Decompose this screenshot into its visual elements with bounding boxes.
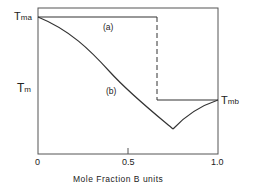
curve-b-descending: [38, 17, 173, 129]
x-axis-label: Mole Fraction B units: [73, 175, 163, 184]
y-axis-label: Tm: [17, 82, 31, 94]
plot-frame: [38, 8, 218, 154]
curve-b-label: (b): [106, 87, 116, 96]
curve-b-ascending: [173, 100, 218, 129]
x-tick-label-0.5: 0.5: [122, 158, 135, 167]
x-tick-label-0: 0: [35, 158, 40, 167]
tma-label: Tma: [14, 11, 32, 22]
x-tick-label-1.0: 1.0: [211, 158, 224, 167]
curve-a-label: (a): [103, 23, 113, 32]
tmb-label: Tmb: [221, 95, 239, 106]
